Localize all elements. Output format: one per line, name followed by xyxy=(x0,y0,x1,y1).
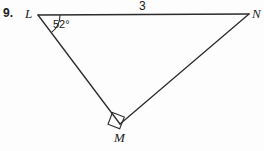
angle-measure-label-l: 52° xyxy=(53,19,70,30)
vertex-label-l: L xyxy=(25,7,32,20)
segment-lm xyxy=(38,15,120,124)
problem-number: 9. xyxy=(3,7,13,19)
vertex-label-m: M xyxy=(114,131,125,144)
segment-ln xyxy=(38,14,249,15)
vertex-label-n: N xyxy=(252,7,261,20)
segment-mn xyxy=(120,14,249,124)
side-length-label-ln: 3 xyxy=(139,0,146,12)
right-angle-marker-m xyxy=(108,113,124,129)
figure-page: 9. L M N 3 52° xyxy=(0,0,264,151)
triangle-figure xyxy=(0,0,264,151)
